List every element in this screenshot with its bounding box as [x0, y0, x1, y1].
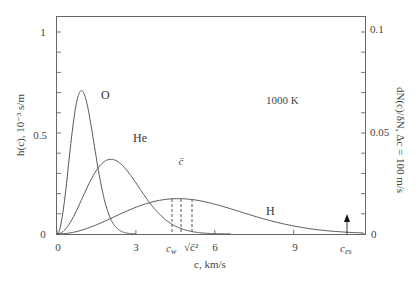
ces-arrow-icon [344, 214, 350, 222]
y-tick-0.5: 0.5 [33, 129, 47, 141]
crms-label: √c̄² [184, 241, 199, 253]
y-axis-title: h(c), 10⁻³ s/m [14, 94, 27, 156]
y-tick-0: 0 [40, 228, 46, 240]
maxwell-distribution-chart: 0 0.5 1 0 0.05 0.1 0 3 6 9 cw √c̄² c̄ ce… [0, 0, 420, 283]
x-ticks [57, 230, 294, 234]
right-y-tick-0.05: 0.05 [370, 126, 390, 138]
ces-label: ces [340, 242, 352, 256]
temperature-label: 1000 K [266, 94, 299, 106]
y-tick-1: 1 [40, 26, 46, 38]
right-y-ticks [361, 32, 365, 234]
x-tick-0: 0 [55, 241, 61, 253]
x-tick-9: 9 [292, 241, 298, 253]
cw-label: cw [166, 242, 177, 256]
left-y-ticks [57, 32, 61, 234]
cbar-label: c̄ [179, 155, 184, 167]
curve-helium [57, 159, 231, 234]
plot-frame [57, 17, 366, 235]
x-tick-3: 3 [133, 241, 139, 253]
curve-hydrogen [57, 199, 363, 234]
right-y-tick-0: 0 [371, 228, 377, 240]
series-label-H: H [266, 204, 275, 218]
series-label-He: He [133, 131, 147, 145]
right-y-tick-0.1: 0.1 [370, 23, 384, 35]
right-y-axis-title: dN(c)/δN, Δc = 100 m/s [394, 87, 407, 193]
series-label-O: O [101, 88, 110, 102]
x-tick-6: 6 [212, 241, 218, 253]
x-axis-title: c, km/s [194, 258, 226, 270]
